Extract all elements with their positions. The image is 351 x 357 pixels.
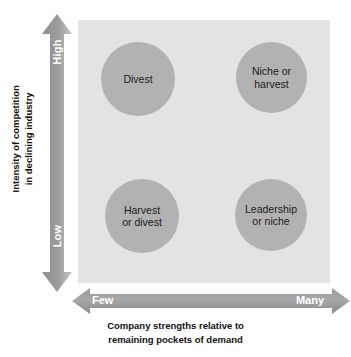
quadrant-bubble-top-left[interactable]: Divest: [101, 42, 175, 116]
quadrant-bubble-top-right[interactable]: Niche or harvest: [236, 42, 307, 113]
y-axis-title-line-1: Intensity of competition: [10, 54, 23, 224]
quadrant-label-top-left: Divest: [123, 73, 152, 85]
quadrant-label-line-2: or divest: [122, 216, 162, 228]
quadrant-label-line-2: harvest: [252, 78, 291, 90]
quadrant-label-line-1: Harvest: [122, 204, 162, 216]
matrix-panel: Divest Niche or harvest Harvest or dives…: [78, 20, 330, 283]
x-axis-title-line-1: Company strengths relative to: [0, 319, 351, 333]
quadrant-bubble-bottom-left[interactable]: Harvest or divest: [105, 179, 179, 253]
x-axis-title-line-2: remaining pockets of demand: [0, 333, 351, 347]
quadrant-label-line-1: Niche or: [252, 65, 291, 77]
x-axis-many-label: Many: [296, 294, 324, 306]
quadrant-label-bottom-right: Leadership or niche: [245, 203, 297, 228]
quadrant-label-line-2: or niche: [245, 215, 297, 227]
y-axis-title-line-2: in declining industry: [23, 54, 36, 224]
y-axis-title: Intensity of competition in declining in…: [10, 54, 36, 224]
x-axis: Few Many: [72, 288, 350, 314]
x-axis-few-label: Few: [92, 294, 113, 306]
quadrant-label-bottom-left: Harvest or divest: [122, 204, 162, 229]
x-axis-title: Company strengths relative to remaining …: [0, 319, 351, 347]
y-axis-high-label: High: [51, 30, 63, 74]
y-axis: High Low: [42, 14, 72, 292]
quadrant-bubble-bottom-right[interactable]: Leadership or niche: [235, 179, 307, 251]
quadrant-label-line-1: Divest: [123, 73, 152, 85]
quadrant-label-top-right: Niche or harvest: [252, 65, 291, 90]
y-axis-low-label: Low: [51, 214, 63, 258]
quadrant-label-line-1: Leadership: [245, 203, 297, 215]
